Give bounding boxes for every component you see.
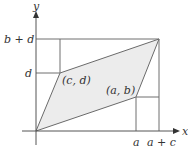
- y-axis-label: y: [32, 0, 40, 13]
- point-label-cd: (c, d): [62, 74, 91, 87]
- parallelogram: [36, 39, 159, 131]
- x-axis-label: x: [182, 125, 188, 138]
- y-tick-b-plus-d: b + d: [4, 33, 34, 46]
- x-axis-arrow-icon: [173, 128, 180, 134]
- y-tick-d: d: [25, 67, 32, 80]
- point-label-ab: (a, b): [106, 84, 135, 97]
- x-tick-a: a: [133, 136, 140, 149]
- x-tick-a-plus-c: a + c: [147, 136, 176, 149]
- parallelogram-diagram: y x b + d d a a + c (c, d) (a, b): [0, 0, 188, 151]
